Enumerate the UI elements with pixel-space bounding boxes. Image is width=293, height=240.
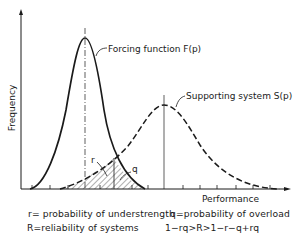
y-axis-label: Frequency [7,84,17,131]
forcing-leader [96,48,107,56]
x-axis-ticks [32,185,270,189]
reliability-inequality: 1−rq>R>1−r−q+rq [165,222,259,233]
y-axis-arrow-icon [19,9,23,15]
supporting-system-label: Supporting system S(p) [186,91,292,101]
y-axis [19,9,23,189]
r-definition: r= probability of understrength [28,208,175,219]
R-definition: R=reliability of systems [27,222,139,233]
q-definition: q=probability of overload [170,208,290,219]
forcing-function-label: Forcing function F(p) [108,44,201,54]
x-axis-label: Performance [202,194,259,204]
supporting-leader [176,96,185,107]
q-region-label: q [132,164,138,174]
x-axis-arrow-icon [284,187,291,191]
forcing-function-curve [30,38,145,189]
r-region-label: r [91,155,95,165]
reliability-diagram: Frequency Forcing function F(p) Supporti… [0,0,293,240]
